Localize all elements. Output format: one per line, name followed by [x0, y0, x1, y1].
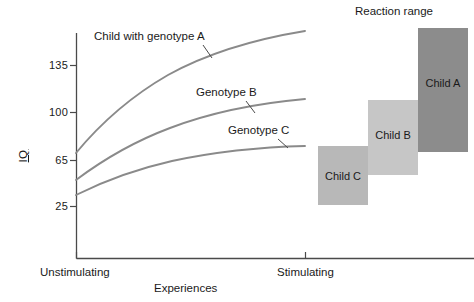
x-tick-label-stimulating: Stimulating — [277, 266, 334, 278]
y-tick-label-135: 135 — [30, 59, 68, 71]
y-tick-label-100: 100 — [30, 106, 68, 118]
reaction-range-figure: 135 100 65 25 IQ Unstimulating Stimulati… — [0, 0, 474, 302]
y-tick-label-25: 25 — [30, 200, 68, 212]
x-axis-title: Experiences — [154, 282, 217, 294]
reaction-range-label-child-a: Child A — [418, 77, 468, 89]
curve-label-genotype-a: Child with genotype A — [94, 30, 205, 42]
reaction-range-title: Reaction range — [355, 5, 433, 17]
reaction-range-label-child-c: Child C — [318, 170, 368, 182]
curve-genotype-b — [76, 99, 305, 180]
reaction-range-box-child-c: Child C — [318, 146, 368, 205]
x-tick-label-unstimulating: Unstimulating — [40, 266, 110, 278]
reaction-range-label-child-b: Child B — [368, 129, 418, 141]
reaction-range-box-child-b: Child B — [368, 100, 418, 175]
curve-genotype-c — [76, 146, 305, 195]
reaction-range-box-child-a: Child A — [418, 28, 468, 152]
curve-label-genotype-c: Genotype C — [228, 124, 289, 136]
y-axis-title: IQ — [17, 145, 29, 167]
curve-label-genotype-b: Genotype B — [196, 86, 257, 98]
y-tick-label-65: 65 — [30, 154, 68, 166]
